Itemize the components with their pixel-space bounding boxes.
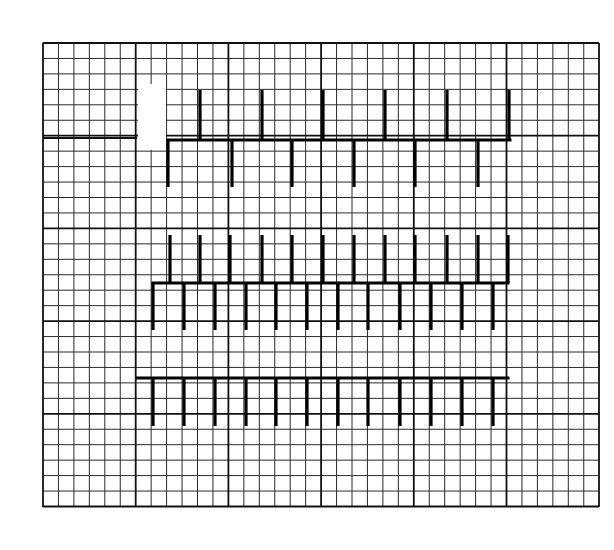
middle-comb: [152, 235, 510, 330]
grid-diagram: [0, 0, 614, 550]
bottom-comb: [136, 378, 510, 426]
erased-region: [138, 84, 166, 150]
tick-structures: [43, 90, 512, 426]
